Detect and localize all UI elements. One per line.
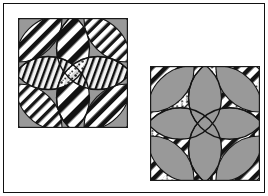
figure-border bbox=[3, 3, 265, 193]
left-block-drawing bbox=[18, 18, 128, 128]
right-block-drawing bbox=[150, 66, 260, 181]
figure-canvas bbox=[0, 0, 268, 196]
left-quilt-block bbox=[18, 18, 128, 128]
right-quilt-block bbox=[150, 66, 260, 181]
